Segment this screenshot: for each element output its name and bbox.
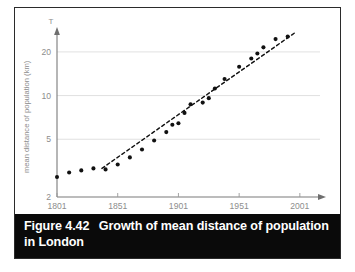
data-point: [128, 155, 132, 159]
data-point: [176, 121, 180, 125]
figure-container: 18011851190119512001 251020 T mean dista…: [0, 0, 355, 272]
data-point: [152, 138, 156, 142]
data-point: [213, 86, 217, 90]
data-point: [79, 168, 83, 172]
y-axis-title: mean distance of population (km): [22, 60, 31, 173]
x-tick-label: 1801: [47, 201, 66, 211]
data-point: [237, 65, 241, 69]
y-axis-arrowhead: [54, 27, 60, 35]
figure-caption-bar: Figure 4.42 Growth of mean distance of p…: [15, 214, 340, 258]
x-axis-ticks: [57, 193, 300, 197]
x-tick-label: 1901: [169, 201, 188, 211]
x-axis-tick-labels: 18011851190119512001: [47, 201, 309, 211]
y-tick-label: 2: [46, 192, 51, 202]
x-tick-label: 1851: [108, 201, 127, 211]
data-point: [116, 162, 120, 166]
data-point: [170, 123, 174, 127]
population-distance-chart: 18011851190119512001 251020 T mean dista…: [15, 8, 340, 216]
data-point: [104, 167, 108, 171]
x-tick-label: 2001: [290, 201, 309, 211]
y-axis-tick-labels: 251020: [41, 47, 51, 202]
data-points: [55, 35, 290, 179]
data-point: [164, 130, 168, 134]
caption-figure-number: Figure 4.42: [24, 219, 89, 233]
y-axis: [54, 27, 60, 197]
data-point: [55, 175, 59, 179]
data-point: [201, 101, 205, 105]
y-tick-label: 5: [46, 134, 51, 144]
x-axis-arrowhead: [318, 194, 326, 200]
y-tick-label: 20: [41, 47, 51, 57]
data-point: [182, 111, 186, 115]
data-point: [67, 170, 71, 174]
gridlines: [57, 52, 320, 139]
chart-canvas: 18011851190119512001 251020 T mean dista…: [15, 8, 340, 216]
data-point: [91, 166, 95, 170]
data-point: [274, 37, 278, 41]
data-point: [223, 77, 227, 81]
data-point: [189, 102, 193, 106]
figure-plate: 18011851190119512001 251020 T mean dista…: [14, 7, 341, 259]
data-point: [286, 35, 290, 39]
y-tick-label: 10: [41, 91, 51, 101]
data-point: [255, 51, 259, 55]
y-axis-top-marker: T: [49, 17, 54, 26]
x-axis: [57, 194, 326, 200]
data-point: [207, 96, 211, 100]
caption-title-text: Growth of mean distance of population: [93, 219, 329, 233]
data-point: [249, 56, 253, 60]
data-point: [140, 147, 144, 151]
caption-line-1: Figure 4.42 Growth of mean distance of p…: [24, 219, 331, 235]
x-tick-label: 1951: [230, 201, 249, 211]
caption-line-2: in London: [24, 235, 331, 251]
data-point: [261, 45, 265, 49]
